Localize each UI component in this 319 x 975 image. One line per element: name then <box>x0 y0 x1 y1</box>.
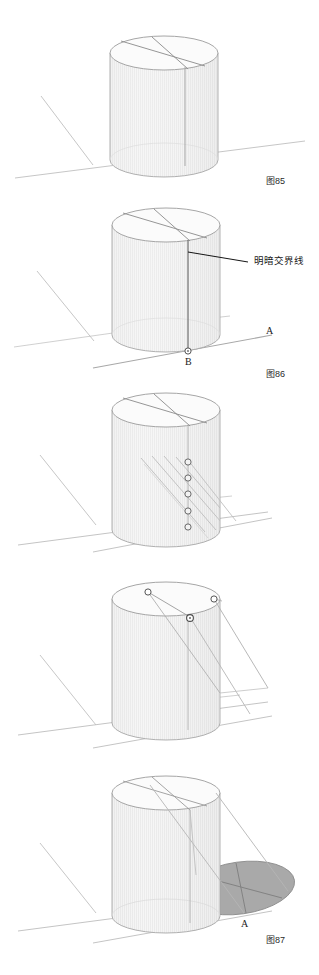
point-f-marker <box>211 596 217 602</box>
panel-fig87: C A 图87 <box>0 390 319 580</box>
terminator-annotation: 明暗交界线 <box>254 253 304 267</box>
panel-fig85: 图85 <box>0 0 319 195</box>
cylinder <box>112 582 220 740</box>
point-label-b: B <box>185 356 192 367</box>
fig88-drawing <box>0 570 319 765</box>
caption-fig86: 图86 <box>266 367 285 380</box>
point-d-marker <box>145 589 151 595</box>
cylinder <box>110 36 218 177</box>
light-direction-line <box>41 96 93 165</box>
panel-fig89: 图89 <box>0 763 319 975</box>
point-label-a: A <box>266 325 273 336</box>
light-direction-line <box>40 455 96 525</box>
panel-fig86: 明暗交界线 A B 图86 <box>0 195 319 390</box>
caption-fig85: 图85 <box>266 174 285 187</box>
cylinder <box>112 776 220 933</box>
point-b-marker <box>185 348 191 354</box>
light-direction-line <box>37 271 94 341</box>
cylinder <box>112 208 220 352</box>
cylinder <box>112 393 220 547</box>
light-direction-line <box>40 843 96 913</box>
fig89-drawing <box>0 763 319 975</box>
panel-fig88: D F E 图88 <box>0 570 319 765</box>
fig85-drawing <box>0 0 319 195</box>
fig87-drawing <box>0 390 319 580</box>
point-e-marker <box>187 615 194 622</box>
light-direction-line <box>40 655 96 725</box>
fig86-drawing <box>0 195 319 390</box>
